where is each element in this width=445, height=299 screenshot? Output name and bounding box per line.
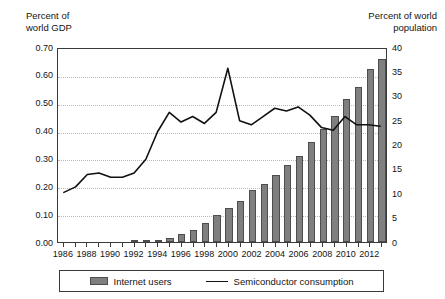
x-tick-mark [228,243,229,247]
left-tick-label: 0.50 [21,99,53,108]
legend-item-internet-users: Internet users [90,276,172,287]
x-tick-mark [98,243,99,247]
x-tick-mark [204,243,205,247]
line-series-semiconductor-consumption [58,49,386,242]
legend-label-internet-users: Internet users [114,276,172,287]
x-tick-mark [322,243,323,247]
left-axis-caption: Percent of world GDP [26,10,72,33]
x-tick-mark [287,243,288,247]
x-tick-mark [251,243,252,247]
left-tick-label: 0.40 [21,127,53,136]
bar-swatch-icon [90,277,108,285]
right-tick-label: 20 [392,141,420,150]
chart-figure: Percent of world GDP Percent of world po… [0,0,445,299]
x-tick-mark [193,243,194,247]
left-tick-label: 0.30 [21,155,53,164]
x-tick-mark [299,243,300,247]
line-path-svg [58,49,386,242]
x-tick-mark [134,243,135,247]
x-tick-mark [169,243,170,247]
legend-item-semiconductor-consumption: Semiconductor consumption [206,276,354,287]
x-tick-mark [110,243,111,247]
right-tick-label: 25 [392,117,420,126]
semiconductor-line [64,68,380,192]
right-tick-label: 35 [392,68,420,77]
left-tick-label: 0.00 [21,239,53,248]
x-tick-mark [63,243,64,247]
x-tick-mark [75,243,76,247]
right-tick-label: 15 [392,165,420,174]
x-tick-mark [275,243,276,247]
x-tick-label: 2012 [349,250,389,259]
x-tick-mark [86,243,87,247]
right-tick-label: 0 [392,239,420,248]
left-tick-label: 0.20 [21,183,53,192]
x-tick-mark [310,243,311,247]
right-tick-label: 40 [392,44,420,53]
right-tick-label: 30 [392,92,420,101]
right-tick-label: 10 [392,190,420,199]
right-axis-caption: Percent of world population [368,10,437,33]
x-tick-mark [263,243,264,247]
x-tick-mark [346,243,347,247]
line-swatch-icon [206,281,228,282]
left-tick-label: 0.70 [21,44,53,53]
x-tick-mark [334,243,335,247]
plot-area [57,48,387,243]
x-tick-mark [381,243,382,247]
left-tick-label: 0.10 [21,211,53,220]
x-tick-mark [181,243,182,247]
x-tick-mark [216,243,217,247]
chart-legend: Internet users Semiconductor consumption [59,270,384,292]
x-tick-mark [369,243,370,247]
x-tick-mark [157,243,158,247]
x-tick-mark [145,243,146,247]
x-tick-mark [358,243,359,247]
x-tick-mark [240,243,241,247]
legend-label-semiconductor-consumption: Semiconductor consumption [234,276,354,287]
right-tick-label: 5 [392,214,420,223]
x-tick-mark [122,243,123,247]
left-tick-label: 0.60 [21,71,53,80]
